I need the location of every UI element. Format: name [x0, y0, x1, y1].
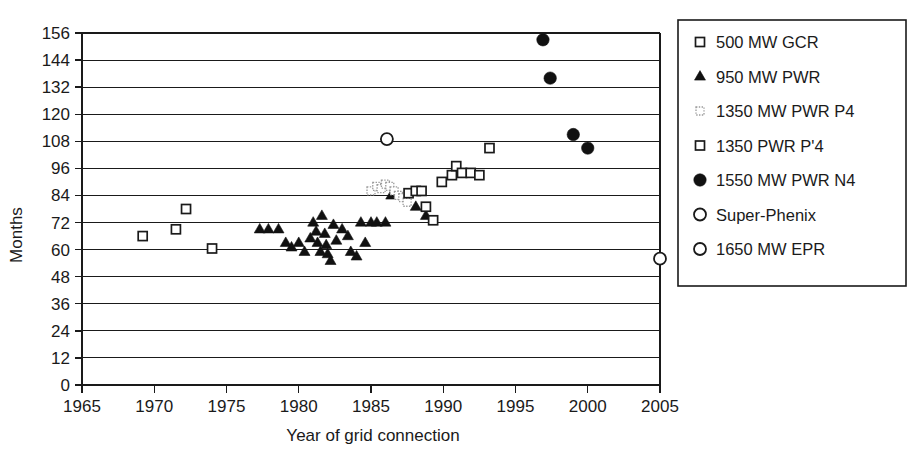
chart-figure: 01224364860728496108120132144156 1965197… [0, 0, 914, 459]
data-point [654, 253, 666, 265]
x-tick-label: 1985 [352, 397, 390, 416]
data-point [355, 217, 366, 227]
data-point [319, 228, 330, 238]
y-tick-label: 24 [51, 322, 70, 341]
x-tick-label: 1970 [135, 397, 173, 416]
x-axis-ticks [82, 385, 660, 393]
y-tick-label: 108 [42, 132, 70, 151]
x-tick-label: 1975 [208, 397, 246, 416]
legend-item-label: 1350 MW PWR P4 [716, 102, 854, 120]
legend-item[interactable]: 1350 MW PWR P4 [696, 102, 854, 120]
data-point [466, 168, 475, 177]
y-tick-label: 12 [51, 349, 70, 368]
y-tick-label: 144 [42, 51, 70, 70]
data-point [403, 198, 411, 206]
legend-item[interactable]: 1550 MW PWR N4 [694, 171, 856, 189]
series-6 [654, 253, 666, 265]
data-point [410, 201, 421, 211]
scatter-plot: 01224364860728496108120132144156 1965197… [0, 0, 914, 459]
data-point [417, 186, 426, 195]
data-point [567, 128, 579, 140]
y-tick-label: 48 [51, 268, 70, 287]
y-axis-title: Months [7, 207, 26, 263]
x-tick-label: 2000 [569, 397, 607, 416]
data-point [299, 246, 310, 256]
legend-marker-open-circle-icon [694, 243, 706, 255]
legend-marker-filled-circle-icon [694, 174, 706, 186]
data-point [475, 171, 484, 180]
data-point [380, 217, 391, 227]
y-tick-label: 36 [51, 295, 70, 314]
data-point [311, 226, 322, 236]
data-points [138, 34, 666, 265]
axis-lines [82, 33, 660, 385]
data-point [582, 142, 594, 154]
data-point [381, 133, 393, 145]
legend-marker-open-square-icon [696, 141, 705, 150]
data-point [331, 235, 342, 245]
legend-item-label: 950 MW PWR [716, 68, 821, 86]
data-point [485, 144, 494, 153]
x-tick-label: 1980 [280, 397, 318, 416]
x-tick-label: 1965 [63, 397, 101, 416]
data-point [293, 237, 304, 247]
legend-marker-open-square-icon [696, 38, 705, 47]
data-point [544, 72, 556, 84]
x-axis-title: Year of grid connection [286, 426, 459, 445]
data-point [328, 219, 339, 229]
data-point [273, 223, 284, 233]
series-4 [537, 34, 594, 155]
series-5 [381, 133, 393, 145]
legend-item-label: 500 MW GCR [716, 33, 819, 51]
y-tick-label: 132 [42, 78, 70, 97]
data-point [208, 244, 217, 253]
x-tick-label: 1990 [424, 397, 462, 416]
legend-marker-open-circle-icon [694, 209, 706, 221]
x-axis-tick-labels: 196519701975198019851990199520002005 [63, 397, 679, 416]
data-point [263, 223, 274, 233]
series-0 [138, 205, 216, 253]
y-axis-ticks [75, 33, 82, 385]
legend-item-label: Super-Phenix [716, 206, 817, 224]
y-axis-tick-labels: 01224364860728496108120132144156 [42, 24, 70, 395]
legend-item-label: 1650 MW EPR [716, 240, 825, 258]
data-point [537, 34, 549, 46]
data-point [182, 205, 191, 214]
y-tick-label: 156 [42, 24, 70, 43]
data-point [458, 168, 467, 177]
y-tick-label: 72 [51, 214, 70, 233]
y-tick-label: 60 [51, 241, 70, 260]
data-point [171, 225, 180, 234]
data-point [421, 202, 430, 211]
data-point [138, 232, 147, 241]
x-tick-label: 2005 [641, 397, 679, 416]
series-3 [404, 144, 494, 225]
legend-item-label: 1550 MW PWR N4 [716, 171, 855, 189]
data-point [360, 237, 371, 247]
data-point [447, 171, 456, 180]
legend-marker-dotted-square-icon [696, 107, 704, 115]
x-tick-label: 1995 [497, 397, 535, 416]
y-tick-label: 96 [51, 159, 70, 178]
data-point [321, 239, 332, 249]
y-tick-label: 120 [42, 105, 70, 124]
legend-item-label: 1350 PWR P'4 [716, 137, 824, 155]
data-point [437, 177, 446, 186]
legend: 500 MW GCR950 MW PWR1350 MW PWR P41350 P… [678, 20, 906, 286]
y-tick-label: 0 [61, 376, 70, 395]
data-point [316, 210, 327, 220]
y-tick-label: 84 [51, 186, 70, 205]
data-point [429, 216, 438, 225]
